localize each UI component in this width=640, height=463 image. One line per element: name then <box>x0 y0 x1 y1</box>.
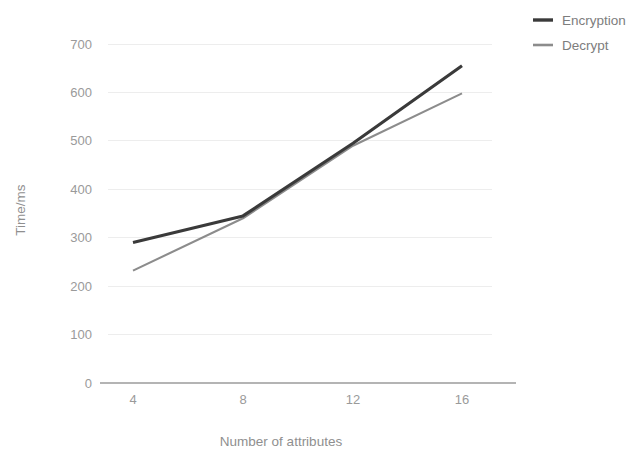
series-line-decrypt <box>133 93 462 270</box>
x-tick-label-16: 16 <box>455 392 469 407</box>
y-tick-label-200: 200 <box>70 279 92 294</box>
legend: Encryption Decrypt <box>533 13 626 53</box>
y-tick-label-500: 500 <box>70 133 92 148</box>
x-axis-title: Number of attributes <box>220 434 343 449</box>
gridlines <box>108 44 492 334</box>
x-tick-label-4: 4 <box>129 392 136 407</box>
y-tick-label-600: 600 <box>70 85 92 100</box>
line-chart: 700 600 500 400 300 200 100 0 4 8 12 16 … <box>0 0 640 463</box>
y-tick-label-700: 700 <box>70 37 92 52</box>
x-tick-label-8: 8 <box>239 392 246 407</box>
chart-canvas: 700 600 500 400 300 200 100 0 4 8 12 16 … <box>0 0 640 463</box>
y-tick-label-400: 400 <box>70 182 92 197</box>
x-tick-label-12: 12 <box>346 392 360 407</box>
y-tick-label-0: 0 <box>85 376 92 391</box>
legend-label-decrypt: Decrypt <box>562 38 609 53</box>
x-tick-labels: 4 8 12 16 <box>129 392 469 407</box>
y-tick-label-100: 100 <box>70 327 92 342</box>
y-tick-labels: 700 600 500 400 300 200 100 0 <box>70 37 92 391</box>
y-tick-label-300: 300 <box>70 230 92 245</box>
legend-label-encryption: Encryption <box>562 13 626 28</box>
y-axis-title: Time/ms <box>13 184 28 235</box>
